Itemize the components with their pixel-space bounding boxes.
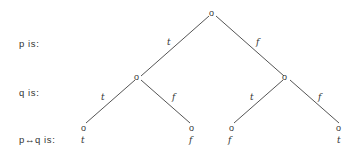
edge-label-left-right: f (171, 92, 177, 102)
edge-label-root-left: t (167, 37, 171, 47)
edge-right-left (234, 80, 283, 123)
edge-label-root-right: f (255, 37, 261, 47)
edge-left-left (86, 80, 135, 123)
leaf-value-2: f (188, 135, 194, 145)
node-leaf-4: o (336, 123, 341, 133)
edge-root-right (216, 16, 284, 76)
leaf-value-3: f (227, 135, 233, 145)
node-root: o (209, 8, 214, 18)
edge-label-right-right: f (317, 92, 323, 102)
edge-label-right-left: t (250, 92, 254, 102)
node-leaf-3: o (229, 123, 234, 133)
edge-label-left-left: t (101, 92, 105, 102)
edge-right-right (290, 80, 339, 123)
leaf-value-4: t (337, 135, 341, 145)
edge-left-right (141, 80, 190, 123)
node-q-left: o (134, 72, 139, 82)
edge-root-left (141, 16, 209, 76)
node-leaf-1: o (81, 123, 86, 133)
leaf-value-1: t (81, 135, 85, 145)
truth-tree: o o o o o o o t f t f t f t f f t (0, 0, 360, 153)
node-q-right: o (282, 72, 287, 82)
node-leaf-2: o (189, 123, 194, 133)
